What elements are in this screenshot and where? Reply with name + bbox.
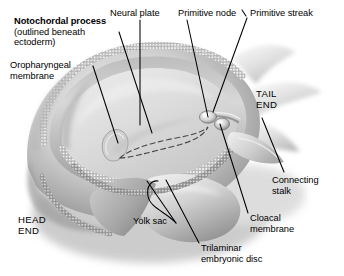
cloacal-membrane-feature [215, 118, 230, 130]
label-oropharyngeal-membrane: Oropharyngealmembrane [10, 60, 71, 81]
label-neural-plate-line-1: Neural plate [110, 8, 160, 19]
leader-primitive-streak-tick [242, 10, 246, 16]
label-primitive-streak: Primitive streak [250, 8, 313, 19]
label-connecting-stalk-line-2: stalk [272, 186, 319, 197]
label-head-end-line-1: HEAD [18, 214, 46, 225]
label-cloacal-membrane-line-1: Cloacal [250, 213, 294, 224]
label-primitive-node-line-1: Primitive node [178, 8, 236, 19]
label-notochordal-process-line-3: ectoderm) [14, 37, 106, 48]
label-trilaminar-embryonic-disc-line-2: embryonic disc [201, 254, 262, 265]
label-connecting-stalk: Connectingstalk [272, 175, 319, 196]
label-cloacal-membrane-line-2: membrane [250, 224, 294, 235]
label-cloacal-membrane: Cloacalmembrane [250, 213, 294, 234]
label-connecting-stalk-line-1: Connecting [272, 175, 319, 186]
label-tail-end-line-1: TAIL [256, 88, 277, 99]
label-oropharyngeal-membrane-line-1: Oropharyngeal [10, 60, 71, 71]
label-primitive-streak-line-1: Primitive streak [250, 8, 313, 19]
label-neural-plate: Neural plate [110, 8, 160, 19]
label-tail-end: TAILEND [256, 88, 277, 110]
label-trilaminar-embryonic-disc-line-1: Trilaminar [201, 243, 262, 254]
label-notochordal-process-line-2: (outlined beneath [14, 27, 106, 38]
label-oropharyngeal-membrane-line-2: membrane [10, 71, 71, 82]
label-trilaminar-embryonic-disc: Trilaminarembryonic disc [201, 243, 262, 264]
label-tail-end-line-2: END [256, 99, 277, 110]
label-notochordal-process-line-1: Notochordal process [14, 16, 106, 27]
label-primitive-node: Primitive node [178, 8, 236, 19]
label-yolk-sac-line-1: Yolk sac [133, 216, 167, 227]
label-yolk-sac: Yolk sac [133, 216, 167, 227]
label-head-end: HEADEND [18, 214, 46, 236]
label-notochordal-process: Notochordal process(outlined beneathecto… [14, 16, 106, 48]
label-head-end-line-2: END [18, 225, 46, 236]
